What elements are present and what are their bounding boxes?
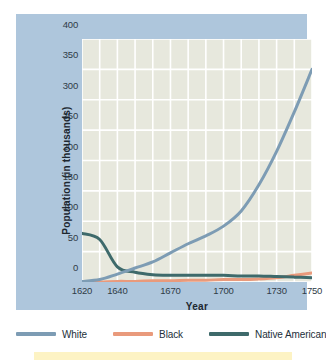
bottom-accent-strip <box>34 352 292 360</box>
chart-panel: 050100150200250300350400 Population (in … <box>16 14 307 310</box>
legend-label-black: Black <box>159 329 183 340</box>
legend-item-native-american[interactable]: Native American <box>209 329 326 340</box>
x-tick-label: 1670 <box>160 285 180 296</box>
y-axis-title-container: Population (in thousands) <box>38 28 58 324</box>
series-line-white <box>82 69 312 281</box>
y-axis-title: Population (in thousands) <box>61 76 72 266</box>
legend-label-native-american: Native American <box>255 329 326 340</box>
x-tick-label: 1750 <box>302 285 322 296</box>
x-tick-label: 1640 <box>107 285 127 296</box>
x-axis-tick-labels: 162016401670170017301750 <box>82 285 312 299</box>
chart-legend: White Black Native American <box>16 326 307 342</box>
legend-label-white: White <box>62 329 87 340</box>
x-tick-label: 1620 <box>72 285 92 296</box>
plot-area <box>82 39 312 282</box>
legend-item-white[interactable]: White <box>16 329 87 340</box>
legend-swatch-black <box>113 332 153 336</box>
legend-swatch-native-american <box>209 332 249 336</box>
x-tick-label: 1730 <box>266 285 286 296</box>
x-axis-title: Year <box>82 301 312 312</box>
legend-item-black[interactable]: Black <box>113 329 183 340</box>
x-tick-label: 1700 <box>213 285 233 296</box>
legend-swatch-white <box>16 332 56 336</box>
data-series-lines <box>82 39 312 282</box>
